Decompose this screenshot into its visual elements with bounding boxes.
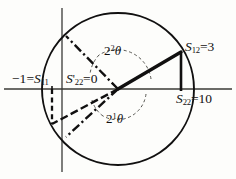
label-s11: −1=S11 <box>12 72 49 87</box>
label-s22-text: S <box>176 91 183 106</box>
label-s22: S22=10 <box>176 92 212 107</box>
label-s12-equals: = <box>200 39 208 54</box>
label-angle-upper: 22θ <box>104 44 121 57</box>
label-s12-text: S <box>185 39 192 54</box>
label-s22-prime-value: 0 <box>91 71 98 86</box>
label-s22-value: 10 <box>199 91 213 106</box>
label-s22-prime-symbol: S <box>66 71 73 86</box>
label-s11-lead: −1 <box>12 71 26 86</box>
label-s12: S12=3 <box>185 40 214 55</box>
label-s11-equals: = <box>26 71 34 86</box>
label-s22-prime-subscript: 22 <box>75 77 83 87</box>
label-s22-prime: S'22=0 <box>66 72 97 87</box>
label-s11-symbol: S <box>34 71 41 86</box>
label-angle-lower-theta: θ <box>117 111 123 126</box>
label-s22-subscript: 22 <box>183 97 191 107</box>
label-angle-upper-theta: θ <box>115 43 121 58</box>
label-s22-equals: = <box>191 91 199 106</box>
label-s22-prime-equals: = <box>83 71 91 86</box>
label-angle-lower: 21θ <box>106 112 123 125</box>
principal-radius-line <box>118 52 181 89</box>
label-s11-subscript: 11 <box>41 77 49 87</box>
mohr-circle-figure: S12=3 S22=10 −1=S11 S'22=0 22θ 21θ <box>0 0 236 179</box>
diagram-canvas <box>0 0 236 179</box>
label-s12-value: 3 <box>208 39 215 54</box>
label-s12-subscript: 12 <box>192 45 200 55</box>
